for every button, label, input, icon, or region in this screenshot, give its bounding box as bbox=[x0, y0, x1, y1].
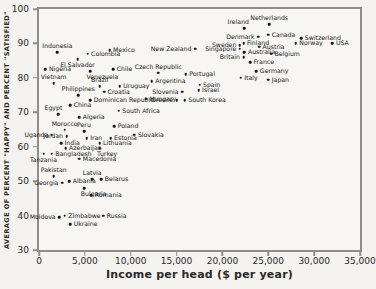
country-label: Philippines bbox=[62, 86, 95, 92]
y-tick-mark bbox=[33, 8, 37, 10]
y-tick-label: 100 bbox=[7, 4, 29, 14]
data-point bbox=[145, 97, 148, 100]
data-point bbox=[295, 42, 298, 45]
y-tick-label: 80 bbox=[7, 72, 29, 82]
country-label: Portugal bbox=[189, 71, 215, 77]
country-label: Italy bbox=[244, 74, 257, 80]
y-tick-mark bbox=[33, 249, 37, 251]
country-label: Pakistan bbox=[41, 167, 67, 173]
country-label: Peru bbox=[77, 123, 91, 129]
data-point bbox=[112, 68, 115, 71]
country-label: Morocco bbox=[52, 121, 78, 127]
data-point bbox=[65, 135, 68, 138]
data-point bbox=[77, 94, 80, 97]
data-point bbox=[331, 42, 334, 45]
country-label: Turkey bbox=[97, 151, 117, 157]
x-tick-label: 20,000 bbox=[207, 256, 239, 266]
data-point bbox=[56, 51, 59, 54]
data-point bbox=[57, 113, 60, 116]
data-point bbox=[58, 216, 61, 219]
x-tick-label: 25,000 bbox=[253, 256, 285, 266]
country-label: Norway bbox=[299, 40, 322, 46]
country-label: Ireland bbox=[228, 19, 249, 25]
y-tick-label: 50 bbox=[7, 176, 29, 186]
country-label: Japan bbox=[272, 76, 289, 82]
country-label: Slovenia bbox=[152, 88, 178, 94]
country-label: Czech Republic bbox=[135, 64, 182, 70]
data-point bbox=[86, 52, 89, 55]
data-point bbox=[83, 130, 86, 133]
data-point bbox=[255, 70, 258, 73]
data-point bbox=[151, 80, 154, 83]
data-point bbox=[42, 152, 45, 155]
country-label: Latvia bbox=[83, 171, 102, 177]
country-label: Slovakia bbox=[138, 131, 164, 137]
data-point bbox=[51, 152, 54, 155]
country-label: Mexico bbox=[113, 47, 135, 53]
country-label: Uruguay bbox=[123, 83, 149, 89]
data-point bbox=[197, 89, 200, 92]
data-point bbox=[83, 187, 86, 190]
data-point bbox=[68, 180, 71, 183]
data-point bbox=[113, 125, 116, 128]
data-point bbox=[267, 78, 270, 81]
country-label: Greece bbox=[151, 97, 173, 103]
data-point bbox=[44, 68, 47, 71]
data-point bbox=[98, 85, 101, 88]
y-tick-mark bbox=[33, 77, 37, 79]
data-point bbox=[102, 214, 105, 217]
data-point bbox=[257, 35, 260, 38]
data-point bbox=[98, 142, 101, 145]
data-point bbox=[239, 77, 242, 80]
data-point bbox=[69, 104, 72, 107]
data-point bbox=[117, 109, 120, 112]
country-label: Ukraine bbox=[74, 221, 98, 227]
data-point bbox=[52, 175, 55, 178]
data-point bbox=[108, 49, 111, 52]
data-point bbox=[85, 137, 88, 140]
country-label: Netherlands bbox=[250, 16, 288, 22]
data-point bbox=[181, 90, 184, 93]
data-point bbox=[63, 214, 66, 217]
x-axis-title: Income per head ($ per year) bbox=[37, 268, 362, 281]
data-point bbox=[52, 82, 55, 85]
data-point bbox=[249, 61, 252, 64]
country-label: Tanzania bbox=[30, 157, 57, 163]
country-label: Venezuela bbox=[87, 74, 119, 80]
data-point bbox=[98, 147, 101, 150]
country-label: New Zealand bbox=[151, 45, 192, 51]
data-point bbox=[118, 85, 121, 88]
country-label: Chile bbox=[117, 66, 133, 72]
data-point bbox=[103, 90, 106, 93]
data-point bbox=[100, 178, 103, 181]
data-point bbox=[239, 47, 242, 50]
x-tick-label: 10,000 bbox=[115, 256, 147, 266]
country-label: Egypt bbox=[45, 105, 63, 111]
country-label: Finland bbox=[247, 40, 269, 46]
data-point bbox=[69, 223, 72, 226]
country-label: Denmark bbox=[226, 33, 254, 39]
y-tick-mark bbox=[33, 215, 37, 217]
y-tick-label: 60 bbox=[7, 141, 29, 151]
country-label: Jordan bbox=[43, 133, 63, 139]
data-point bbox=[76, 58, 79, 61]
country-label: South Africa bbox=[122, 107, 160, 113]
y-tick-mark bbox=[33, 112, 37, 114]
x-tick-label: 5,000 bbox=[72, 256, 98, 266]
plot-area: IndonesiaNigeriaVietnamPhilippinesEgyptC… bbox=[37, 7, 362, 252]
data-point bbox=[89, 70, 92, 73]
country-label: France bbox=[253, 59, 274, 65]
data-point bbox=[194, 47, 197, 50]
x-tick-label: 15,000 bbox=[161, 256, 193, 266]
y-tick-label: 90 bbox=[7, 38, 29, 48]
data-point bbox=[243, 51, 246, 54]
country-label: Georgia bbox=[34, 179, 58, 185]
data-point bbox=[175, 99, 178, 102]
y-tick-label: 30 bbox=[7, 245, 29, 255]
country-label: China bbox=[74, 102, 92, 108]
country-label: El Salvador bbox=[60, 62, 95, 68]
country-label: Belarus bbox=[105, 176, 128, 182]
country-label: Indonesia bbox=[42, 43, 72, 49]
country-label: Bulgaria bbox=[81, 191, 107, 197]
